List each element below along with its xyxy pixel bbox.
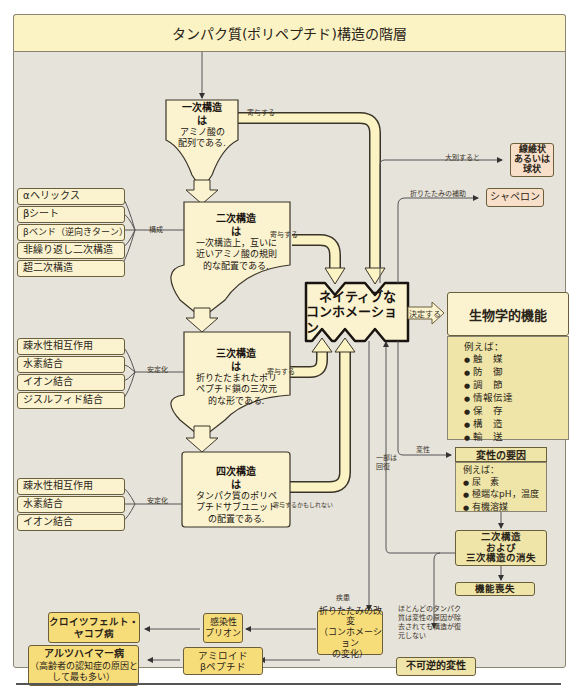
tertiary-relation-label: 安定化 xyxy=(147,364,168,374)
alzheimer-line: （高齢者の認知症の原因と xyxy=(30,661,138,672)
bio-item: 防 御 xyxy=(464,366,568,379)
note-line: 質は変性の原因が除 xyxy=(398,614,461,623)
biological-function-list: 例えば： 触 媒 防 御 調 節 情報伝達 保 存 構 造 輸 送 xyxy=(447,336,569,440)
denaturation-item: 有機溶媒 xyxy=(463,502,546,515)
tertiary-component: イオン結合 xyxy=(17,374,125,391)
prion-line: 感染性 xyxy=(210,617,237,628)
tertiary-component: ジスルフィド結合 xyxy=(17,392,125,409)
cjd-line: ヤコブ病 xyxy=(74,628,114,639)
tertiary-heading: 三次構造 xyxy=(182,348,290,361)
irreversible-denaturation-box: 不可逆的変性 xyxy=(396,657,476,676)
cjd-box: クロイツフェルト・ ヤコブ病 xyxy=(48,612,140,643)
secondary-line: 一次構造上，互いに xyxy=(182,238,290,249)
denaturation-label: 変性 xyxy=(416,444,430,454)
bio-item: 情報伝達 xyxy=(464,392,568,405)
classification-label: 大別すると xyxy=(445,152,480,162)
denaturation-intro: 例えば： xyxy=(463,465,546,477)
irreversible-note: ほとんどのタンパク 質は変性の原因が除 去されても構造が復 元しない xyxy=(398,605,461,641)
misfold-line: 折りたたみの改変 xyxy=(318,606,382,628)
note-line: ほとんどのタンパク xyxy=(398,605,461,614)
secondary-line: 近いアミノ酸の規則 xyxy=(182,249,290,260)
bio-item: 構 造 xyxy=(464,418,568,431)
denaturation-item: 極端なpH，温度 xyxy=(463,489,546,502)
cjd-line: クロイツフェルト・ xyxy=(49,616,139,627)
biological-function-title: 生物学的機能 xyxy=(447,292,569,336)
quaternary-component: 疎水性相互作用 xyxy=(17,478,125,495)
note-line: 去されても構造が復 xyxy=(398,623,461,632)
tertiary-line: 的な形である. xyxy=(182,396,290,407)
partial-recovery-line: 一部は xyxy=(376,454,397,463)
primary-contributes-label: 寄与する xyxy=(247,107,275,117)
native-line: ネイティブな xyxy=(319,289,396,305)
tertiary-component: 水素結合 xyxy=(17,356,125,373)
bottom-divider xyxy=(16,683,561,685)
quaternary-is: は xyxy=(182,479,290,492)
chaperone-box: シャペロン xyxy=(486,188,544,207)
secondary-contributes-label: 寄与する xyxy=(270,229,298,239)
quaternary-structure: 四次構造 は タンパク質のポリペ プチドサブユニット の配置である. xyxy=(182,466,290,525)
alzheimer-title: アルツハイマー病 xyxy=(44,648,124,661)
partial-recovery-line: 回復 xyxy=(376,463,397,472)
secondary-component: αヘリックス xyxy=(17,188,125,205)
prion-line: プリオン xyxy=(205,628,241,639)
fibrous-globular-box: 線維状 あるいは 球状 xyxy=(510,143,554,177)
chaperone-label: 折りたたみの補助 xyxy=(410,188,466,198)
secondary-component: βシート xyxy=(17,206,125,223)
alzheimer-box: アルツハイマー病 （高齢者の認知症の原因と して最も多い） xyxy=(28,645,139,686)
bio-intro: 例えば： xyxy=(464,341,568,353)
bio-item: 触 媒 xyxy=(464,353,568,366)
primary-line: 配列である. xyxy=(166,138,238,149)
quaternary-heading: 四次構造 xyxy=(182,466,290,479)
determines-label: 決定する xyxy=(409,308,441,319)
primary-line: アミノ酸の xyxy=(166,127,238,138)
secondary-component: βベンド（逆向きターン） xyxy=(17,224,125,241)
partial-recovery-label: 一部は 回復 xyxy=(376,454,397,472)
secondary-heading: 二次構造 xyxy=(182,213,290,226)
denaturation-factors-title: 変性の要因 xyxy=(455,447,547,462)
structure-loss-line: 二次構造 xyxy=(481,532,521,543)
amyloid-line: アミロイド xyxy=(198,650,248,661)
alzheimer-line: して最も多い） xyxy=(52,672,115,683)
tertiary-structure: 三次構造 は 折りたたまれたポリ ペプチド鎖の三次元 的な形である. xyxy=(182,348,290,407)
misfold-line: （コンホメーション xyxy=(318,627,382,649)
quaternary-line: の配置である. xyxy=(182,514,290,525)
denaturation-item: 尿 素 xyxy=(463,477,546,490)
quaternary-relation-label: 安定化 xyxy=(147,495,168,505)
misfolding-box: 折りたたみの改変 （コンホメーション の変化） xyxy=(317,610,383,655)
secondary-component: 非繰り返し二次構造 xyxy=(17,242,125,259)
note-line: 元しない xyxy=(398,632,461,641)
structure-loss-line: 三次構造の消失 xyxy=(466,553,536,564)
classification-line: 球状 xyxy=(523,165,541,175)
secondary-relation-label: 構成 xyxy=(149,224,163,234)
native-line: コンホメーション xyxy=(306,304,408,335)
bio-item: 保 存 xyxy=(464,405,568,418)
secondary-line: 的な配置である. xyxy=(182,261,290,272)
bio-item: 調 節 xyxy=(464,379,568,392)
quaternary-component: 水素結合 xyxy=(17,496,125,513)
tertiary-contributes-label: 寄与する xyxy=(267,366,295,376)
denaturation-factors-list: 例えば： 尿 素 極端なpH，温度 有機溶媒 xyxy=(455,462,547,512)
structure-loss-box: 二次構造 および 三次構造の消失 xyxy=(455,530,547,566)
amyloid-line: βペプチド xyxy=(200,661,246,672)
tertiary-component: 疎水性相互作用 xyxy=(17,338,125,355)
primary-structure: 一次構造 は アミノ酸の 配列である. xyxy=(166,102,238,150)
quaternary-contributes-label: 寄与するかもしれない xyxy=(273,500,333,509)
primary-heading: 一次構造 xyxy=(166,102,238,115)
primary-is: は xyxy=(166,115,238,128)
disease-label: 疾患 xyxy=(336,592,350,602)
amyloid-beta-box: アミロイド βペプチド xyxy=(183,647,263,675)
bio-item: 輸 送 xyxy=(464,431,568,444)
tertiary-line: ペプチド鎖の三次元 xyxy=(182,384,290,395)
quaternary-component: イオン結合 xyxy=(17,514,125,531)
prion-box: 感染性 プリオン xyxy=(203,613,243,643)
native-conformation: ネイティブな コンホメーション xyxy=(306,283,408,341)
secondary-structure: 二次構造 は 一次構造上，互いに 近いアミノ酸の規則 的な配置である. xyxy=(182,213,290,272)
function-loss-box: 機能喪失 xyxy=(455,582,535,596)
misfold-line: の変化） xyxy=(332,649,368,660)
secondary-component: 超二次構造 xyxy=(17,260,125,277)
